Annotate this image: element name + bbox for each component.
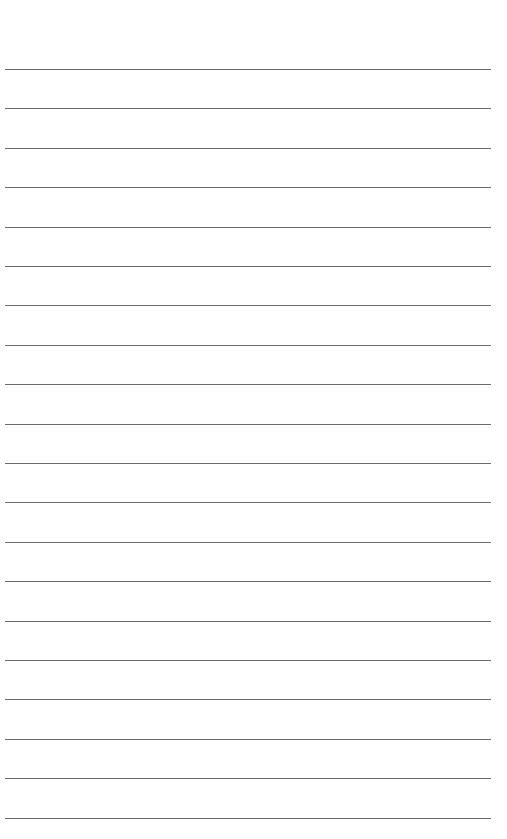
ruled-line <box>5 345 491 346</box>
ruled-line <box>5 266 491 267</box>
ruled-line <box>5 384 491 385</box>
ruled-line <box>5 581 491 582</box>
ruled-line <box>5 621 491 622</box>
ruled-line <box>5 187 491 188</box>
ruled-line <box>5 818 491 819</box>
ruled-line <box>5 227 491 228</box>
ruled-line <box>5 778 491 779</box>
ruled-line <box>5 542 491 543</box>
ruled-line <box>5 108 491 109</box>
ruled-line <box>5 148 491 149</box>
ruled-line <box>5 69 491 70</box>
ruled-line <box>5 424 491 425</box>
ruled-line <box>5 699 491 700</box>
ruled-line <box>5 502 491 503</box>
ruled-line <box>5 463 491 464</box>
lined-page <box>0 0 507 839</box>
ruled-line <box>5 660 491 661</box>
ruled-line <box>5 739 491 740</box>
ruled-line <box>5 305 491 306</box>
